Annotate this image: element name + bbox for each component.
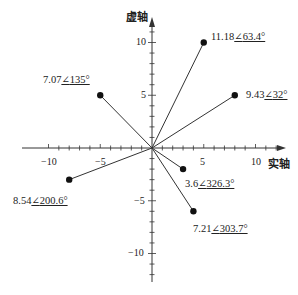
angle-value: 135° bbox=[70, 74, 90, 85]
magnitude: 9.43 bbox=[246, 89, 264, 100]
phasor-label-1: 9.43∠32° bbox=[246, 90, 287, 101]
angle: ∠32° bbox=[264, 89, 287, 100]
phasor-line bbox=[152, 43, 204, 149]
angle-value: 63.4° bbox=[243, 31, 266, 42]
phasor-label-5: 7.21∠303.7° bbox=[193, 224, 248, 235]
imaginary-axis-arrow-icon bbox=[149, 17, 155, 27]
angle-value: 303.7° bbox=[220, 223, 248, 234]
phasor-point-icon bbox=[66, 176, 72, 182]
phasor-point-icon bbox=[232, 92, 238, 98]
x-tick-label-neg10: −10 bbox=[41, 157, 57, 167]
phasor-point-icon bbox=[190, 208, 196, 214]
phasor-4 bbox=[152, 148, 186, 172]
phasor-line bbox=[100, 95, 152, 148]
phasor-line bbox=[152, 148, 183, 169]
magnitude: 7.07 bbox=[43, 74, 61, 85]
magnitude: 3.6 bbox=[185, 178, 198, 189]
x-tick-label-neg5: −5 bbox=[95, 157, 106, 167]
phasor-2 bbox=[97, 92, 152, 148]
phasor-3 bbox=[66, 148, 152, 183]
x-tick-label-10: 10 bbox=[251, 157, 261, 167]
x-tick-label-5: 5 bbox=[200, 157, 205, 167]
y-tick-label-neg10: −10 bbox=[128, 248, 144, 258]
phasor-label-0: 11.18∠63.4° bbox=[211, 32, 265, 43]
angle: ∠303.7° bbox=[211, 223, 247, 234]
phasor-1 bbox=[152, 92, 238, 148]
plot-canvas bbox=[0, 0, 298, 295]
angle: ∠200.6° bbox=[31, 195, 67, 206]
phasor-0 bbox=[152, 39, 207, 148]
magnitude: 7.21 bbox=[193, 223, 211, 234]
angle: ∠326.3° bbox=[198, 178, 234, 189]
real-axis-arrow-icon bbox=[277, 145, 286, 151]
phasor-label-3: 8.54∠200.6° bbox=[13, 196, 68, 207]
y-tick-label-5: 5 bbox=[141, 90, 146, 100]
complex-plane-diagram: 虚轴 实轴 −10 −5 5 10 10 5 −5 −10 11.18∠63.4… bbox=[0, 0, 298, 295]
angle: ∠135° bbox=[61, 74, 89, 85]
phasor-line bbox=[69, 148, 152, 180]
phasor-label-2: 7.07∠135° bbox=[43, 75, 90, 86]
y-tick-label-neg5: −5 bbox=[134, 196, 145, 206]
phasor-point-icon bbox=[180, 166, 186, 172]
magnitude: 8.54 bbox=[13, 195, 31, 206]
angle-value: 326.3° bbox=[207, 178, 235, 189]
real-axis-title: 实轴 bbox=[268, 159, 290, 170]
phasor-point-icon bbox=[97, 92, 103, 98]
magnitude: 11.18 bbox=[211, 31, 234, 42]
imaginary-axis-title: 虚轴 bbox=[126, 12, 148, 23]
angle: ∠63.4° bbox=[234, 31, 265, 42]
phasor-label-4: 3.6∠326.3° bbox=[185, 179, 234, 190]
phasor-point-icon bbox=[201, 39, 207, 45]
angle-value: 32° bbox=[273, 89, 288, 100]
angle-value: 200.6° bbox=[40, 195, 68, 206]
y-tick-label-10: 10 bbox=[136, 37, 146, 47]
